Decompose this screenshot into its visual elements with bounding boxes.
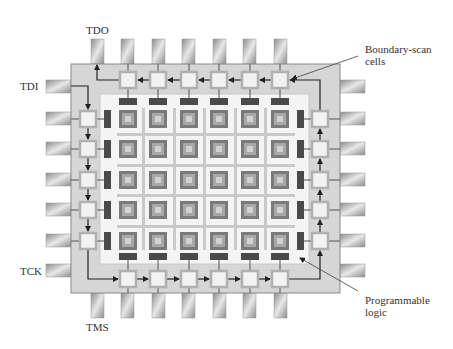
top-pins [91, 39, 287, 64]
boundary-scan-label-line1: Boundary-scan [365, 43, 432, 55]
programmable-logic-label-line1: Programmable [365, 294, 430, 306]
programmable-logic-label-line2: logic [365, 306, 387, 318]
right-pins [340, 80, 365, 277]
boundary-scan-label-line2: cells [365, 55, 385, 67]
left-pins [46, 80, 71, 277]
tdi-label: TDI [20, 80, 38, 92]
tms-label: TMS [86, 321, 109, 333]
bottom-pins [91, 293, 287, 318]
tck-label: TCK [20, 265, 42, 277]
tdo-label: TDO [86, 24, 109, 36]
